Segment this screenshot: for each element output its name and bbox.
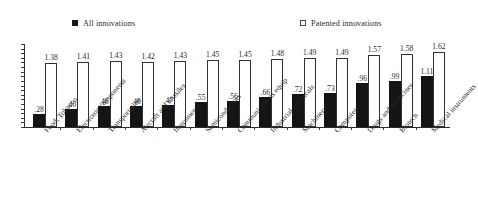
y-axis-tick <box>21 95 25 96</box>
y-axis-tick <box>21 90 25 91</box>
y-axis-tick <box>21 127 25 128</box>
y-axis-tick <box>21 76 25 77</box>
bar-value-label: .99 <box>390 73 400 81</box>
bar-value-label: 1.62 <box>432 43 445 51</box>
bar-value-label: 1.42 <box>141 53 154 61</box>
bar-value-label: .73 <box>325 85 335 93</box>
bar-value-label: 1.11 <box>420 68 433 76</box>
y-axis-tick <box>21 67 25 68</box>
y-axis-tick <box>21 49 25 50</box>
y-axis-tick <box>21 122 25 123</box>
legend-label-patented-innovations: Patented innovations <box>311 19 381 28</box>
bar-value-label: .28 <box>34 106 44 114</box>
bar-value-label: 1.58 <box>400 45 413 53</box>
y-axis-tick <box>21 72 25 73</box>
hollow-square-icon <box>300 20 306 26</box>
bar-value-label: 1.41 <box>77 53 90 61</box>
bar-value-label: 1.49 <box>335 49 348 57</box>
legend-label-all-innovations: All innovations <box>83 19 135 28</box>
x-axis-labels: Food, TobaccoElectronic componentsTransp… <box>29 129 449 207</box>
y-axis-tick <box>21 81 25 82</box>
legend-entry-all-innovations: All innovations <box>72 17 135 29</box>
bar-all-innovations: 1.11 <box>421 76 433 127</box>
y-axis-tick <box>21 53 25 54</box>
y-axis-tick <box>21 99 25 100</box>
bar-value-label: 1.45 <box>206 51 219 59</box>
y-axis-tick <box>21 113 25 114</box>
bar-value-label: 1.49 <box>303 49 316 57</box>
bar-value-label: 1.43 <box>174 52 187 60</box>
y-axis-tick <box>21 104 25 105</box>
y-axis-tick <box>21 109 25 110</box>
y-axis-tick <box>21 62 25 63</box>
bar-value-label: .96 <box>358 75 368 83</box>
y-axis-tick <box>21 86 25 87</box>
bar-value-label: 1.57 <box>368 46 381 54</box>
bar-value-label: .55 <box>196 94 206 102</box>
bar-all-innovations: .96 <box>356 83 368 127</box>
y-axis-tick <box>21 58 25 59</box>
bar-value-label: 1.43 <box>109 52 122 60</box>
y-axis-tick <box>21 118 25 119</box>
y-axis-tick <box>21 44 25 45</box>
legend-entry-patented-innovations: Patented innovations <box>300 17 381 29</box>
bar-value-label: 1.48 <box>271 50 284 58</box>
bar-value-label: 1.45 <box>238 51 251 59</box>
filled-square-icon <box>72 20 78 26</box>
bar-value-label: 1.38 <box>45 54 58 62</box>
